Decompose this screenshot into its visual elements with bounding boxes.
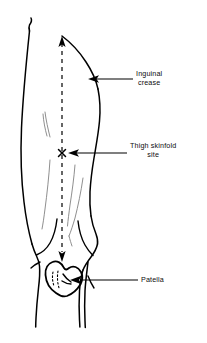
leader-inguinal-crease: [88, 75, 133, 83]
leg-outline-left: [21, 18, 40, 327]
label-patella: Patella: [141, 276, 164, 285]
anatomical-line-drawing: [0, 0, 207, 343]
patella-inner-solid-detail: [62, 274, 71, 284]
figure-canvas: Inguinal crease Thigh skinfold site Pate…: [0, 0, 207, 343]
label-patella-line-1: Patella: [141, 276, 164, 285]
measurement-axis-dashed-line: [58, 36, 65, 262]
label-inguinal-crease: Inguinal crease: [136, 70, 162, 87]
patella-inner-detail: [52, 271, 59, 288]
leader-thigh-skinfold-site: [68, 149, 127, 157]
leader-patella: [70, 276, 138, 285]
label-inguinal-crease-line-2: crease: [136, 79, 162, 88]
label-thigh-skinfold-site: Thigh skinfold site: [130, 142, 176, 159]
axis-arrowhead-down: [58, 251, 65, 262]
label-thigh-skinfold-site-line-2: site: [130, 151, 176, 160]
